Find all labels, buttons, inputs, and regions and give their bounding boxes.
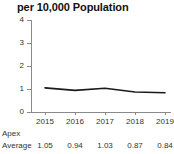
plot-area: 4 3 2 1 0 [0,17,174,115]
series-line-apex-average [0,17,174,115]
cell-average-2019: 0.84 [152,141,174,151]
row-label-average: Average [2,141,32,151]
cell-average-2018: 0.87 [122,141,148,151]
x-axis-labels: 2015 2016 2017 2018 2019 [31,117,171,127]
chart-panel: per 10,000 Population 4 3 2 1 0 2015 201… [0,0,174,154]
table-row-apex: Apex [0,129,174,140]
x-tick-label-2016: 2016 [62,117,88,126]
x-tick-label-2015: 2015 [32,117,58,126]
page-title: per 10,000 Population [17,1,129,13]
cell-average-2015: 1.05 [32,141,58,151]
x-tick-label-2018: 2018 [122,117,148,126]
table-row-average: Average 1.05 0.94 1.03 0.87 0.84 [0,141,174,152]
cell-average-2016: 0.94 [62,141,88,151]
x-tick-label-2017: 2017 [92,117,118,126]
cell-average-2017: 1.03 [92,141,118,151]
x-tick-label-2019: 2019 [152,117,174,126]
data-table: Apex Average 1.05 0.94 1.03 0.87 0.84 [0,129,174,154]
row-label-apex: Apex [2,129,20,139]
